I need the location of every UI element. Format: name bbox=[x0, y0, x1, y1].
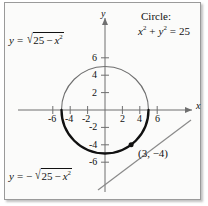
circle-figure: -6 -4 -2 2 4 6 6 4 2 -2 -4 -6 x y y=√25−… bbox=[0, 0, 208, 206]
lower-fn-leading-minus: − bbox=[26, 170, 32, 182]
upper-function-label: y=√25−x2 bbox=[9, 32, 64, 46]
lower-fn-a: 25 bbox=[41, 170, 52, 182]
upper-fn-exp: 2 bbox=[59, 33, 62, 40]
circle-eq-exp-y: 2 bbox=[163, 24, 166, 31]
y-tick-label-4: 4 bbox=[92, 69, 97, 80]
lower-fn-equals: = bbox=[17, 170, 23, 182]
point-coordinate-label: (3, −4) bbox=[138, 147, 168, 160]
x-axis-name: x bbox=[196, 100, 200, 112]
circle-eq-exp-x: 2 bbox=[143, 24, 146, 31]
circle-eq-equals: = bbox=[170, 25, 176, 37]
y-tick-label-neg4: -4 bbox=[89, 139, 97, 150]
circle-eq-value: 25 bbox=[179, 25, 190, 37]
y-axis-name: y bbox=[101, 8, 105, 20]
lower-fn-exp: 2 bbox=[68, 169, 71, 176]
x-tick-label-neg4: -4 bbox=[65, 113, 73, 124]
y-tick-label-6: 6 bbox=[92, 52, 97, 63]
upper-fn-minus: − bbox=[46, 34, 52, 46]
x-tick-label-4: 4 bbox=[137, 113, 142, 124]
lower-fn-lhs: y bbox=[9, 170, 14, 182]
lower-fn-radical-group: √25−x2 bbox=[34, 168, 72, 182]
circle-caption-title: Circle: bbox=[141, 10, 171, 23]
circle-eq-plus: + bbox=[149, 25, 155, 37]
upper-fn-a: 25 bbox=[33, 34, 44, 46]
upper-fn-radicand: 25−x2 bbox=[33, 32, 64, 46]
x-tick-label-neg6: -6 bbox=[48, 113, 56, 124]
circle-equation: x2+y2=25 bbox=[138, 24, 190, 37]
lower-fn-minus: − bbox=[54, 170, 60, 182]
lower-function-label: y=−√25−x2 bbox=[9, 168, 72, 182]
x-axis-arrow bbox=[185, 107, 192, 113]
y-tick-label-2: 2 bbox=[92, 87, 97, 98]
x-tick-label-6: 6 bbox=[155, 113, 160, 124]
tangency-point-marker bbox=[129, 142, 134, 147]
lower-fn-radicand: 25−x2 bbox=[41, 168, 72, 182]
upper-fn-radical-group: √25−x2 bbox=[26, 32, 64, 46]
x-tick-label-2: 2 bbox=[120, 113, 125, 124]
upper-fn-equals: = bbox=[17, 34, 23, 46]
y-tick-label-neg6: -6 bbox=[89, 156, 97, 167]
radical-sign-icon: √ bbox=[35, 166, 41, 182]
radical-sign-icon: √ bbox=[27, 30, 33, 46]
upper-fn-lhs: y bbox=[9, 34, 14, 46]
y-tick-label-neg2: -2 bbox=[89, 121, 97, 132]
